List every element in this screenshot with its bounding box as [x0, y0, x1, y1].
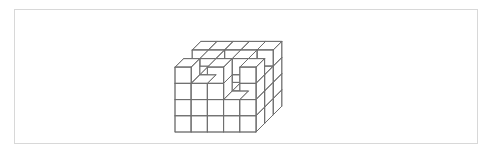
cube-face	[240, 67, 256, 83]
cube-face	[175, 67, 191, 83]
cube-face	[224, 100, 240, 116]
screenshot-root	[0, 0, 494, 157]
cube-face	[240, 100, 256, 116]
cube-face	[207, 116, 223, 132]
cube-face	[175, 100, 191, 116]
figure-border-box	[14, 9, 478, 144]
cube-face	[240, 116, 256, 132]
cube-face	[207, 83, 223, 99]
cube-face	[175, 83, 191, 99]
cube-face	[191, 83, 207, 99]
cube-face	[191, 100, 207, 116]
cube-face	[191, 116, 207, 132]
cube-face	[224, 116, 240, 132]
cube-face	[175, 116, 191, 132]
cube-stack-svg	[15, 10, 477, 143]
cube-face	[207, 100, 223, 116]
voxel-figure-stage	[15, 10, 477, 143]
cube-stack-group	[175, 41, 282, 132]
